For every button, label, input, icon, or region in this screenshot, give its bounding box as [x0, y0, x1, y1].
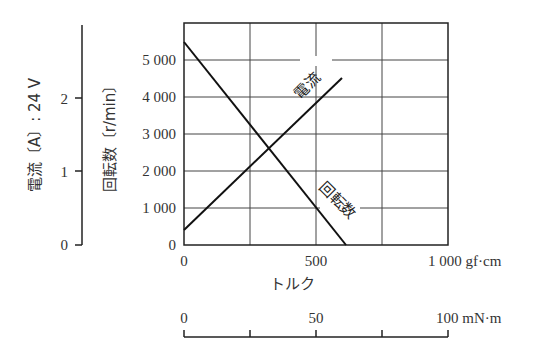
rpm-axis-title: 回転数〔r/min〕: [101, 78, 119, 193]
rpm-tick-2000: 2 000: [142, 163, 176, 179]
rpm-tick-0: 0: [169, 237, 177, 253]
secondary-torque-axis: [184, 330, 448, 337]
rpm-tick-4000: 4 000: [142, 89, 176, 105]
current-tick-2: 2: [61, 91, 69, 107]
current-tick-0: 0: [61, 237, 69, 253]
x-axis-title: トルク: [270, 275, 315, 293]
x2-tick-50: 50: [309, 310, 324, 326]
current-curve-label: 電流: [290, 69, 324, 103]
current-tick-1: 1: [61, 164, 69, 180]
x-tick-500: 500: [305, 253, 328, 269]
x-tick-0: 0: [180, 253, 188, 269]
current-axis: [75, 25, 82, 245]
current-axis-title: 電流〔A〕: 24 V: [26, 77, 44, 192]
x-tick-1000: 1 000 gf·cm: [428, 253, 502, 269]
x2-tick-100: 100 mN·m: [436, 310, 502, 326]
x2-tick-0: 0: [180, 310, 188, 326]
rpm-curve: [184, 42, 346, 245]
rpm-tick-5000: 5 000: [142, 52, 176, 68]
rpm-tick-3000: 3 000: [142, 126, 176, 142]
torque-characteristic-chart: 0 1 2 電流〔A〕: 24 V 回転数〔r/min〕 0 1 000 2 0…: [0, 0, 551, 355]
rpm-tick-1000: 1 000: [142, 200, 176, 216]
current-curve: [184, 78, 342, 230]
